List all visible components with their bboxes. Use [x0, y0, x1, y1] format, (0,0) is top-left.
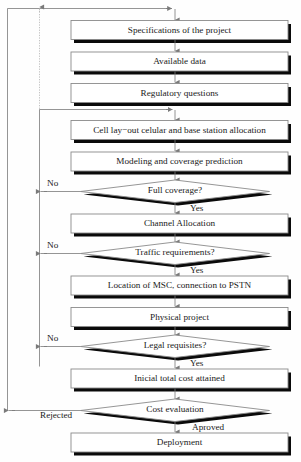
node-label-msc-location: Location of MSC, connection to PSTN	[108, 280, 252, 290]
node-regulatory-questions: Regulatory questions	[71, 84, 291, 107]
node-label-initial-cost: Inicial total cost attained	[134, 373, 225, 383]
node-available-data: Available data	[71, 52, 291, 75]
node-label-physical-project: Physical project	[150, 312, 209, 322]
flowchart-diagram: Specifications of the project Available …	[0, 0, 301, 462]
node-label-legal-requisites: Legal requisites?	[144, 340, 207, 350]
node-label-specifications: Specifications of the project	[128, 25, 232, 35]
edge-label-legal-no: No	[47, 333, 59, 343]
edge-label-traffic-no: No	[47, 240, 59, 250]
node-label-deployment: Deployment	[157, 437, 203, 447]
node-modeling: Modeling and coverage prediction	[71, 152, 291, 175]
edge-label-cost-rejected: Rejected	[40, 410, 73, 420]
edge-cost-rejected: Rejected	[9, 410, 81, 420]
node-label-regulatory-questions: Regulatory questions	[141, 88, 219, 98]
node-cell-layout: Cell lay−out celular and base station al…	[71, 121, 291, 144]
node-specifications: Specifications of the project	[71, 21, 291, 44]
node-full-coverage: Full coverage?	[81, 180, 273, 206]
edge-label-full-coverage-no: No	[47, 178, 59, 188]
edge-traffic-no: No	[41, 240, 81, 254]
edge-label-cost-approved: Aproved	[192, 422, 225, 432]
node-label-cost-evaluation: Cost evaluation	[146, 404, 204, 414]
node-label-cell-layout: Cell lay−out celular and base station al…	[93, 125, 266, 135]
node-label-channel-allocation: Channel Allocation	[144, 218, 216, 228]
node-label-modeling: Modeling and coverage prediction	[116, 156, 243, 166]
node-initial-cost: Inicial total cost attained	[71, 369, 291, 392]
node-deployment: Deployment	[71, 433, 291, 456]
edge-label-traffic-yes: Yes	[190, 265, 204, 275]
edge-label-legal-yes: Yes	[190, 358, 204, 368]
node-physical-project: Physical project	[71, 308, 291, 331]
node-traffic-requirements: Traffic requirements?	[81, 242, 273, 268]
node-msc-location: Location of MSC, connection to PSTN	[71, 276, 291, 299]
node-label-available-data: Available data	[153, 56, 206, 66]
edge-legal-no: No	[41, 333, 81, 347]
node-channel-allocation: Channel Allocation	[71, 214, 291, 237]
edge-label-full-coverage-yes: Yes	[190, 203, 204, 213]
flowchart-canvas: Specifications of the project Available …	[0, 0, 301, 462]
node-legal-requisites: Legal requisites?	[81, 335, 273, 361]
node-label-full-coverage: Full coverage?	[148, 185, 202, 195]
node-label-traffic-requirements: Traffic requirements?	[135, 247, 214, 257]
node-cost-evaluation: Cost evaluation	[81, 399, 273, 425]
edge-full-coverage-no: No	[41, 178, 81, 192]
